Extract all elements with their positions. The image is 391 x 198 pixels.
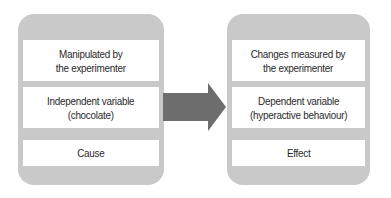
independent-variable-label: Independent variable (chocolate) [47, 94, 134, 122]
right-arrow-icon [163, 83, 226, 131]
effect-label: Effect [287, 146, 311, 160]
independent-variable-cell: Independent variable (chocolate) [23, 87, 159, 128]
dependent-variable-panel: Changes measured by the experimenter Dep… [227, 14, 370, 185]
manipulated-cell: Manipulated by the experimenter [23, 40, 159, 81]
cause-cell: Cause [23, 140, 159, 166]
cause-label: Cause [77, 146, 104, 160]
dependent-variable-label: Dependent variable (hyperactive behaviou… [250, 94, 347, 122]
measured-cell: Changes measured by the experimenter [232, 40, 365, 81]
dependent-variable-cell: Dependent variable (hyperactive behaviou… [232, 87, 365, 128]
independent-variable-panel: Manipulated by the experimenter Independ… [18, 14, 164, 185]
measured-label: Changes measured by the experimenter [251, 47, 346, 75]
manipulated-label: Manipulated by the experimenter [56, 47, 126, 75]
effect-cell: Effect [232, 140, 365, 166]
